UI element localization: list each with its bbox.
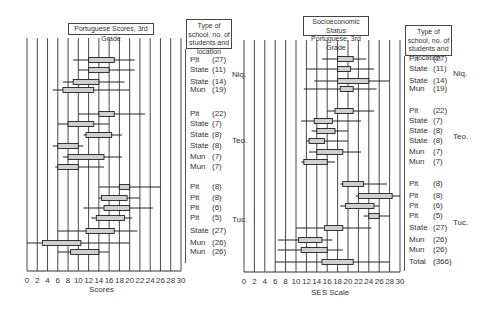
legend-row: Mun(26) — [409, 245, 447, 254]
school-type: State — [409, 126, 433, 135]
school-type: Pit — [190, 109, 212, 118]
x-tick-label: 24 — [364, 277, 373, 286]
x-tick-label: 12 — [302, 277, 311, 286]
student-count: (19) — [212, 85, 226, 94]
legend-row: Pit(5) — [190, 213, 222, 222]
x-tick-label: 10 — [292, 277, 301, 286]
student-count: (7) — [212, 152, 222, 161]
x-tick-label: 14 — [94, 276, 103, 285]
legend-row: Pit(22) — [409, 106, 447, 115]
box — [343, 182, 364, 187]
x-tick-label: 16 — [323, 277, 332, 286]
box — [89, 68, 110, 73]
x-tick-label: 0 — [242, 277, 247, 286]
student-count: (5) — [212, 213, 222, 222]
student-count: (7) — [433, 116, 443, 125]
box — [369, 214, 379, 219]
student-count: (7) — [433, 147, 443, 156]
legend-row: State(27) — [409, 223, 447, 232]
student-count: (8) — [212, 193, 222, 202]
student-count: (7) — [212, 119, 222, 128]
box — [325, 226, 343, 231]
school-type: Mun — [409, 245, 433, 254]
legend-row: State(27) — [190, 226, 226, 235]
legend-row: Pit(5) — [409, 211, 443, 220]
x-tick-label: 6 — [273, 277, 278, 286]
legend-row: Pit(22) — [190, 109, 226, 118]
school-type: Mun — [190, 247, 212, 256]
school-type: State — [190, 130, 212, 139]
school-type: Pit — [190, 182, 212, 191]
school-type: Mun — [409, 147, 433, 156]
x-tick-label: 2 — [252, 277, 257, 286]
x-tick-label: 30 — [396, 277, 405, 286]
x-tick-label: 20 — [125, 276, 134, 285]
box — [63, 88, 94, 93]
box — [58, 165, 79, 170]
left-x-axis-label: Scores — [89, 285, 114, 294]
student-count: (26) — [212, 247, 226, 256]
student-count: (26) — [433, 235, 447, 244]
box — [99, 112, 114, 117]
x-tick-label: 18 — [333, 277, 342, 286]
legend-row: Pit(8) — [190, 193, 222, 202]
student-count: (8) — [212, 141, 222, 150]
box — [68, 155, 104, 160]
x-tick-label: 22 — [354, 277, 363, 286]
x-tick-label: 26 — [375, 277, 384, 286]
legend-row: Mun(7) — [409, 157, 443, 166]
school-type: Pit — [409, 106, 433, 115]
legend-row: Mun(7) — [409, 147, 443, 156]
legend-row: State(11) — [190, 65, 226, 74]
x-tick-label: 0 — [25, 276, 30, 285]
legend-row: State(7) — [190, 119, 222, 128]
box — [345, 204, 374, 209]
box — [314, 119, 332, 124]
box — [86, 133, 112, 138]
x-tick-label: 26 — [156, 276, 165, 285]
student-count: (7) — [433, 157, 443, 166]
box — [101, 196, 127, 201]
school-type: State — [409, 64, 433, 73]
x-tick-label: 2 — [35, 276, 40, 285]
x-tick-label: 8 — [66, 276, 71, 285]
school-type: State — [190, 226, 212, 235]
school-type: Mun — [190, 238, 212, 247]
school-type: Pit — [409, 201, 433, 210]
student-count: (8) — [433, 191, 443, 200]
legend-row: Mun(19) — [190, 85, 226, 94]
box — [299, 238, 322, 243]
x-tick-label: 6 — [56, 276, 61, 285]
school-type: State — [190, 65, 212, 74]
legend-row: Pit(8) — [409, 191, 443, 200]
x-tick-label: 14 — [312, 277, 321, 286]
location-label: Teo. — [453, 132, 468, 141]
x-tick-label: 18 — [115, 276, 124, 285]
school-type: Mun — [409, 84, 433, 93]
student-count: (7) — [212, 162, 222, 171]
box — [358, 194, 392, 199]
school-type: State — [409, 136, 433, 145]
student-count: (27) — [433, 223, 447, 232]
x-tick-label: 4 — [45, 276, 50, 285]
student-count: (8) — [433, 126, 443, 135]
student-count: (27) — [212, 55, 226, 64]
x-tick-label: 28 — [166, 276, 175, 285]
legend-row: State(8) — [190, 130, 222, 139]
school-type: Pit — [190, 203, 212, 212]
box — [335, 109, 353, 114]
x-tick-label: 28 — [385, 277, 394, 286]
student-count: (5) — [433, 211, 443, 220]
student-count: (366) — [433, 257, 452, 266]
box — [58, 144, 79, 149]
student-count: (8) — [212, 182, 222, 191]
box — [104, 206, 130, 211]
legend-row: Pit(6) — [409, 201, 443, 210]
school-type: Mun — [409, 157, 433, 166]
x-tick-label: 22 — [135, 276, 144, 285]
student-count: (11) — [212, 65, 226, 74]
box — [301, 248, 327, 253]
student-count: (26) — [212, 238, 226, 247]
legend-row: State(8) — [409, 136, 443, 145]
school-type: State — [409, 116, 433, 125]
